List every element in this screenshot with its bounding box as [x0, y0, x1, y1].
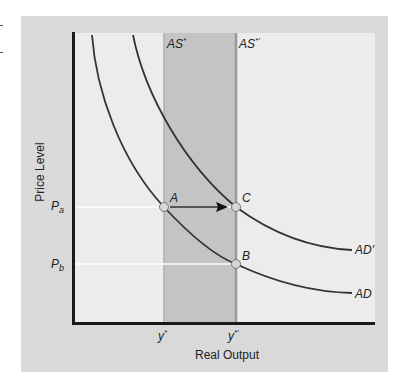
- point-b: [232, 260, 241, 269]
- shaded-band: [164, 33, 236, 323]
- pb-label: Pb: [51, 258, 64, 273]
- pa-label-sub: a: [59, 205, 64, 215]
- ad-prime-label: AD′: [355, 244, 374, 256]
- diagram-canvas: [0, 0, 407, 386]
- as-star-label: AS*: [167, 37, 186, 50]
- as-star-prime-label-base: AS: [239, 37, 255, 51]
- pb-label-sub: b: [59, 263, 64, 273]
- point-c-label: C: [242, 192, 251, 204]
- as-star-label-sup: *: [183, 36, 186, 45]
- pa-label: Pa: [51, 200, 64, 215]
- x-axis-title: Real Output: [195, 349, 259, 361]
- pa-label-base: P: [51, 199, 59, 213]
- ad-label: AD: [355, 288, 372, 300]
- as-star-prime-label: AS*′: [239, 37, 260, 50]
- pb-label-base: P: [51, 257, 59, 271]
- y-axis-title: Price Level: [34, 139, 46, 205]
- y-star-label-sup: *: [164, 328, 167, 337]
- as-star-prime-label-sup: *′: [255, 36, 260, 45]
- point-c: [232, 203, 241, 212]
- y-star-prime-label-sup: *′: [234, 328, 239, 337]
- point-a-label: A: [170, 192, 178, 204]
- as-star-label-base: AS: [167, 37, 183, 51]
- y-star-label: y*: [158, 329, 167, 342]
- point-b-label: B: [242, 250, 250, 262]
- y-star-prime-label: y*′: [228, 329, 239, 342]
- point-a: [160, 203, 169, 212]
